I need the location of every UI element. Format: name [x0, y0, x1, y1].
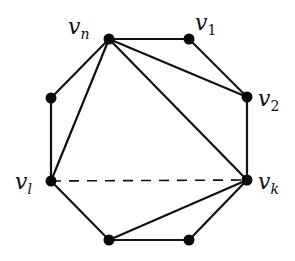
polygon-edge-bl-vl	[51, 181, 109, 240]
dashed-diagonal-vl-vk	[51, 180, 247, 181]
label-v1: v1	[195, 10, 216, 38]
vertex-vl	[46, 176, 57, 187]
label-v2: v2	[258, 86, 279, 114]
vertex-vn	[104, 34, 115, 45]
label-vl: vl	[15, 169, 32, 197]
dashed-edges	[51, 180, 247, 181]
vertex-bl	[104, 235, 115, 246]
diagonal-vn-vl	[51, 39, 109, 181]
vertices	[46, 34, 253, 246]
vertex-br	[184, 235, 195, 246]
polygon-triangulation-diagram: vn v1 v2 vl vk	[0, 0, 295, 261]
polygon-edges	[51, 39, 247, 240]
vertex-v1	[184, 34, 195, 45]
label-vn: vn	[68, 14, 89, 42]
polygon-edge-ul-vn	[51, 39, 109, 98]
diagonal-vn-v2	[109, 39, 247, 97]
diagonal-vn-vk	[109, 39, 247, 180]
vertex-v2	[242, 92, 253, 103]
diagonal-bl-vk	[109, 180, 247, 240]
vertex-vk	[242, 175, 253, 186]
vertex-ul	[46, 93, 57, 104]
polygon-edge-vk-br	[189, 180, 247, 240]
label-vk: vk	[258, 169, 279, 197]
polygon-edge-v1-v2	[189, 39, 247, 97]
